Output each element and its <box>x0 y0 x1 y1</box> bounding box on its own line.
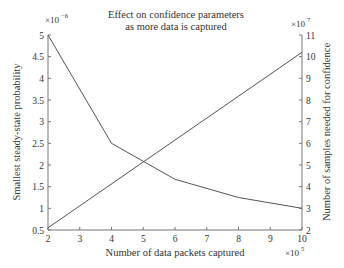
y-left-multiplier: ×10 −6 <box>45 12 69 25</box>
y-right-tick-label: 4 <box>306 182 311 192</box>
y-left-tick-label: 3 <box>39 117 44 127</box>
svg-text:5: 5 <box>301 245 304 252</box>
y-left-tick-label: 2 <box>39 161 44 171</box>
data-series <box>48 35 302 228</box>
y-right-tick-label: 11 <box>306 31 315 41</box>
y-right-multiplier: ×10 7 <box>291 16 311 29</box>
svg-text:×10: ×10 <box>45 15 60 25</box>
y-left-axis-label: Smallest steady-state probability <box>11 63 22 201</box>
x-tick-label: 4 <box>109 234 114 244</box>
y-left-tick-label: 3.5 <box>32 96 44 106</box>
chart-title-line1: Effect on confidence parameters <box>108 9 244 20</box>
y-right-tick-label: 9 <box>306 74 311 84</box>
y-left-tick-label: 1 <box>39 204 44 214</box>
dual-axis-line-chart: 23456789100.511.522.533.544.552345678910… <box>0 0 344 268</box>
x-tick-label: 2 <box>46 234 51 244</box>
y-right-axis-label: Number of samples needed for confidence <box>321 43 332 221</box>
y-left-tick-label: 1.5 <box>32 182 44 192</box>
svg-text:7: 7 <box>307 16 311 23</box>
y-right-tick-label: 3 <box>306 204 311 214</box>
y-left-tick-label: 4.5 <box>32 52 44 62</box>
x-tick-label: 3 <box>77 234 82 244</box>
x-tick-label: 5 <box>141 234 146 244</box>
x-tick-label: 7 <box>204 234 209 244</box>
svg-text:−6: −6 <box>61 12 69 19</box>
y-right-tick-label: 5 <box>306 161 311 171</box>
y-right-tick-label: 7 <box>306 117 311 127</box>
probability-line <box>48 35 302 208</box>
x-tick-label: 6 <box>173 234 178 244</box>
axis-ticks: 23456789100.511.522.533.544.552345678910… <box>32 31 316 245</box>
y-left-tick-label: 2.5 <box>32 139 44 149</box>
y-right-tick-label: 10 <box>306 52 316 62</box>
chart-title-line2: as more data is captured <box>125 21 227 32</box>
x-tick-label: 9 <box>268 234 273 244</box>
svg-text:×10: ×10 <box>285 248 300 258</box>
y-left-tick-label: 5 <box>39 31 44 41</box>
y-left-tick-label: 4 <box>39 74 44 84</box>
x-axis-label: Number of data packets captured <box>106 247 246 258</box>
plot-frame <box>48 35 302 230</box>
y-right-tick-label: 6 <box>306 139 311 149</box>
x-tick-label: 10 <box>297 234 307 244</box>
svg-text:×10: ×10 <box>291 19 306 29</box>
y-right-tick-label: 2 <box>306 226 311 236</box>
y-left-tick-label: 0.5 <box>32 226 44 236</box>
y-right-tick-label: 8 <box>306 96 311 106</box>
x-multiplier: ×10 5 <box>285 245 304 258</box>
x-tick-label: 8 <box>236 234 241 244</box>
